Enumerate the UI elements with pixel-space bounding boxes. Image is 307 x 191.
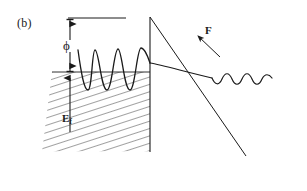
panel-label: (b)	[17, 16, 32, 31]
applied-field-arrow	[198, 36, 220, 57]
field-emission-diagram: (b) ϕ Ef F	[0, 0, 307, 191]
work-function-label: ϕ	[63, 38, 70, 54]
wavefunction-transmitted	[212, 74, 272, 85]
tilted-barrier-line	[150, 17, 246, 156]
metal-filled-states-region	[42, 72, 150, 152]
fermi-level-label-subscript: f	[69, 117, 72, 126]
wavefunction-in-barrier	[150, 63, 212, 78]
diagram-canvas	[0, 0, 307, 191]
applied-field-label: F	[205, 24, 212, 36]
fermi-level-label: Ef	[62, 112, 72, 126]
